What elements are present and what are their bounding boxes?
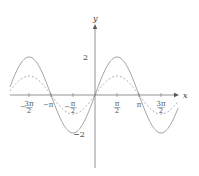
svg-text:2: 2: [27, 107, 31, 115]
x-tick-label: 3π2: [156, 100, 165, 115]
x-tick-label: π: [137, 101, 142, 109]
x-tick-label: −π2: [64, 100, 77, 115]
svg-text:2: 2: [71, 107, 75, 115]
svg-text:π: π: [49, 101, 54, 109]
svg-text:2: 2: [159, 107, 163, 115]
svg-text:2: 2: [115, 107, 119, 115]
x-tick-label: −π: [43, 101, 54, 109]
y-axis-label: y: [92, 14, 98, 23]
x-axis-arrow-icon: [174, 93, 179, 97]
svg-text:π: π: [137, 101, 142, 109]
x-axis-label: x: [183, 91, 188, 100]
x-tick-label: π2: [114, 100, 121, 115]
x-tick-label: −3π2: [20, 100, 34, 115]
chart: x y 2 −2 −3π2−π−π2π2π3π2: [0, 0, 199, 176]
y-tick-label-neg2: −2: [73, 130, 85, 139]
y-tick-label-2: 2: [83, 53, 88, 62]
y-axis-arrow-icon: [93, 24, 97, 29]
x-ticks: −3π2−π−π2π2π3π2: [20, 93, 166, 115]
svg-text:−: −: [64, 103, 70, 111]
